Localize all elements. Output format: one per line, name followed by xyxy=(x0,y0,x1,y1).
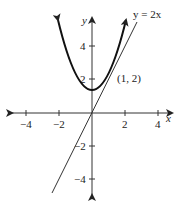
x-tick-label: −4 xyxy=(20,118,32,130)
graph: −4 −2 2 4 4 2 −2 −4 x y y = 2x (1, 2) xyxy=(0,0,182,205)
x-tick-label: −2 xyxy=(53,118,65,130)
y-tick-label: 4 xyxy=(80,40,86,52)
y-tick-label: −4 xyxy=(74,173,86,185)
x-axis-label: x xyxy=(165,112,171,124)
point-label: (1, 2) xyxy=(117,72,141,85)
x-tick-label: 4 xyxy=(155,118,161,130)
y-axis-label: y xyxy=(81,14,87,26)
line-label: y = 2x xyxy=(133,8,162,20)
x-tick-label: 2 xyxy=(122,118,128,130)
